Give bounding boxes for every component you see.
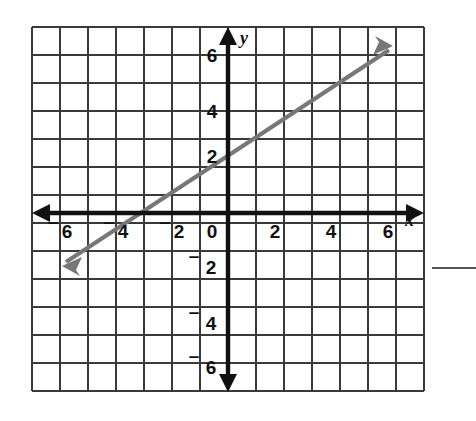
x-tick-minus-sign: – — [104, 211, 115, 232]
y-tick-minus-sign: – — [189, 345, 200, 366]
y-tick-digit: 4 — [206, 313, 217, 334]
y-tick-digit: 2 — [206, 257, 217, 278]
x-tick-label-6: 6 — [383, 221, 394, 242]
x-tick-digit: 4 — [118, 221, 129, 242]
y-tick-label-4: 4 — [207, 101, 218, 122]
axes-group — [41, 36, 415, 383]
x-tick-label-2: 2 — [270, 221, 281, 242]
x-tick-minus-sign: – — [48, 211, 59, 232]
y-tick-label-2: 2 — [207, 146, 218, 167]
y-tick-minus-sign: – — [189, 245, 200, 266]
x-axis-label: x — [404, 210, 414, 230]
y-axis-label: y — [238, 28, 249, 48]
y-tick-minus-sign: – — [189, 301, 200, 322]
y-axis-arrow-down — [219, 374, 237, 392]
x-tick-digit: 2 — [174, 221, 185, 242]
y-tick-digit: 6 — [206, 357, 217, 378]
x-tick-digit: 6 — [62, 221, 73, 242]
y-tick-label-neg6: – 6 — [189, 345, 217, 378]
x-tick-label-4: 4 — [326, 221, 337, 242]
coordinate-plane-svg: y x – 6 – 4 – 2 0 2 4 6 6 4 2 — [0, 0, 476, 421]
origin-label: 0 — [207, 221, 218, 242]
y-axis-arrow-up — [219, 27, 237, 45]
graph-figure: y x – 6 – 4 – 2 0 2 4 6 6 4 2 — [0, 0, 476, 421]
x-tick-minus-sign: – — [160, 211, 171, 232]
y-tick-label-6: 6 — [207, 45, 218, 66]
